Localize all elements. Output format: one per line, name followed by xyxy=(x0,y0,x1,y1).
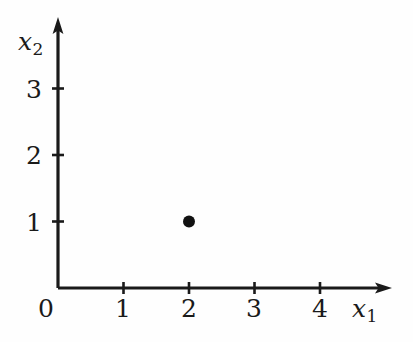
x-axis-label-subscript: 1 xyxy=(367,306,378,326)
y-tick-label-1: 1 xyxy=(24,210,42,235)
y-axis-label-base: x xyxy=(18,27,32,56)
x-axis-label: x1 xyxy=(352,296,377,325)
x-tick-label-2: 2 xyxy=(181,296,197,321)
scatter-plot-figure: x2 x1 0 1 2 3 1 2 3 4 xyxy=(0,0,413,342)
y-axis-label: x2 xyxy=(18,29,43,58)
origin-tick-label: 0 xyxy=(38,296,54,321)
y-axis-label-subscript: 2 xyxy=(33,39,44,59)
x-tick-label-1: 1 xyxy=(115,296,131,321)
y-tick-label-3: 3 xyxy=(24,77,42,102)
y-tick-label-2: 2 xyxy=(24,143,42,168)
coordinate-axes-canvas xyxy=(0,0,413,342)
x-tick-label-3: 3 xyxy=(246,296,262,321)
x-tick-label-4: 4 xyxy=(312,296,328,321)
data-point-marker[interactable] xyxy=(183,216,195,228)
x-axis-label-base: x xyxy=(352,294,366,323)
